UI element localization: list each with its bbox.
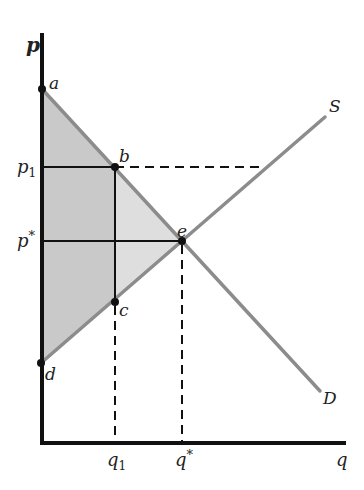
label-b: b bbox=[119, 146, 130, 166]
label-c: c bbox=[119, 300, 129, 320]
x-axis-label: q bbox=[336, 449, 348, 470]
demand-label: D bbox=[322, 388, 337, 408]
point-a bbox=[38, 85, 46, 93]
p1-label: p1 bbox=[17, 156, 36, 180]
qstar-label: q* bbox=[175, 447, 194, 470]
light-shaded-region bbox=[115, 168, 182, 300]
pstar-label: p* bbox=[17, 228, 36, 251]
label-d: d bbox=[45, 364, 56, 384]
supply-demand-diagram: p q S D a b c d e p1 p* q1 q* bbox=[0, 0, 364, 490]
point-d bbox=[37, 359, 45, 367]
point-b bbox=[111, 163, 119, 171]
point-c bbox=[111, 298, 119, 306]
q1-label: q1 bbox=[107, 449, 126, 473]
label-a: a bbox=[49, 73, 59, 93]
y-axis-label: p bbox=[26, 33, 40, 57]
label-e: e bbox=[177, 221, 187, 241]
supply-label: S bbox=[329, 96, 341, 116]
